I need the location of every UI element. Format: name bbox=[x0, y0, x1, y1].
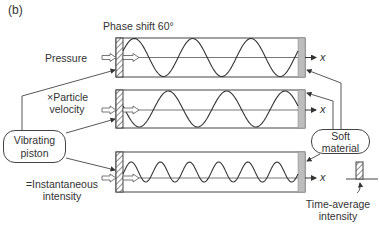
x-axis-label-3: x bbox=[320, 171, 326, 183]
intensity-tube bbox=[102, 152, 316, 192]
time-average-label: Time-average intensity bbox=[298, 198, 378, 222]
piston-hatch-icon bbox=[116, 90, 123, 128]
vibrating-piston-bubble: Vibrating piston bbox=[3, 130, 66, 163]
soft-material-bar bbox=[298, 90, 305, 128]
velocity-tube bbox=[102, 90, 316, 128]
phase-shift-caption: Phase shift 60° bbox=[103, 20, 174, 32]
time-average-icon bbox=[346, 162, 378, 193]
left-double-arrow-icon bbox=[102, 174, 116, 182]
instantaneous-intensity-label: =Instantaneous intensity bbox=[22, 178, 102, 202]
x-axis-label-2: x bbox=[320, 103, 326, 115]
pressure-label: Pressure bbox=[45, 52, 87, 64]
pressure-tube bbox=[102, 38, 316, 77]
left-double-arrow-icon bbox=[102, 54, 116, 62]
left-double-arrow-icon bbox=[102, 106, 116, 114]
particle-velocity-label: ×Particle velocity bbox=[47, 91, 87, 115]
soft-material-bubble: Soft material bbox=[311, 129, 370, 154]
soft-material-bar bbox=[298, 152, 305, 192]
soft-material-bar bbox=[298, 38, 305, 77]
panel-label: (b) bbox=[8, 4, 23, 16]
piston-hatch-icon bbox=[116, 38, 123, 77]
piston-hatch-icon bbox=[116, 152, 123, 192]
x-axis-label-1: x bbox=[320, 51, 326, 63]
